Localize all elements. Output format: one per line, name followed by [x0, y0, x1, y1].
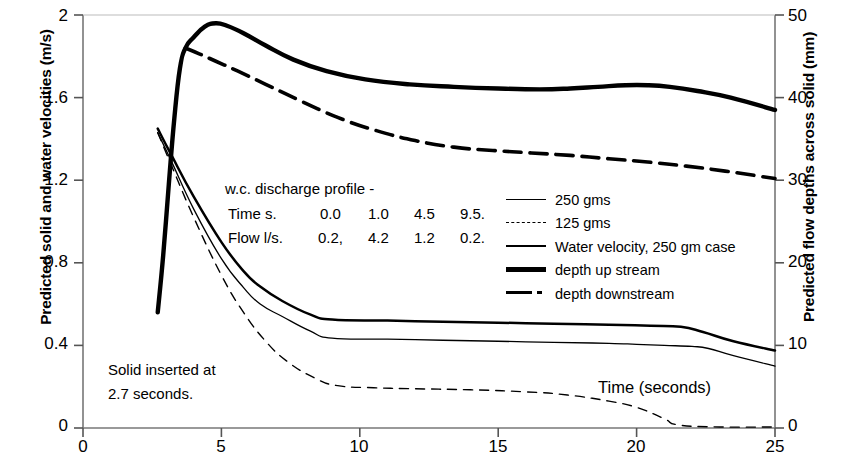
legend-label-water-velocity: Water velocity, 250 gm case [555, 239, 736, 255]
legend-key-thin-solid-icon [506, 193, 546, 207]
legend-label-depth-downstream: depth downstream [555, 286, 674, 302]
legend-key-thick-solid-icon [506, 263, 546, 277]
discharge-time-label: Time s. [228, 205, 277, 222]
legend-item-125-gms[interactable]: 125 gms [506, 212, 736, 236]
discharge-time-value-3: 9.5. [460, 205, 485, 222]
discharge-flow-value-3: 0.2. [460, 229, 485, 246]
discharge-profile-title: w.c. discharge profile - [225, 180, 374, 197]
legend-key-thin-dashed-icon [506, 216, 546, 230]
solid-inserted-note-line2: 2.7 seconds. [108, 385, 193, 402]
legend-item-depth-up-stream[interactable]: depth up stream [506, 259, 736, 283]
legend-item-water-velocity[interactable]: Water velocity, 250 gm case [506, 235, 736, 259]
chart-legend: 250 gms 125 gms Water velocity, 250 gm c… [506, 188, 736, 306]
chart-figure: Predicted solid and water velocities (m/… [0, 0, 854, 474]
legend-label-125-gms: 125 gms [555, 215, 611, 231]
legend-label-depth-up-stream: depth up stream [555, 262, 660, 278]
x-axis-label: Time (seconds) [598, 378, 711, 397]
discharge-flow-value-1: 4.2 [368, 229, 389, 246]
series-line [185, 48, 775, 179]
legend-label-250-gms: 250 gms [555, 192, 611, 208]
solid-inserted-note-line1: Solid inserted at [108, 361, 216, 378]
legend-key-thick-dashdot-icon [506, 287, 546, 301]
legend-item-250-gms[interactable]: 250 gms [506, 188, 736, 212]
discharge-flow-label: Flow l/s. [228, 229, 283, 246]
discharge-time-value-0: 0.0 [320, 205, 341, 222]
legend-item-depth-downstream[interactable]: depth downstream [506, 282, 736, 306]
discharge-flow-value-2: 1.2 [414, 229, 435, 246]
discharge-time-value-2: 4.5 [414, 205, 435, 222]
discharge-time-value-1: 1.0 [368, 205, 389, 222]
legend-key-medium-solid-icon [506, 240, 546, 254]
discharge-flow-value-0: 0.2, [318, 229, 343, 246]
